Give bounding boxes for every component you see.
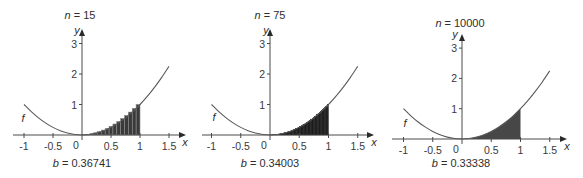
panel-caption: b=0.36741 [53,157,111,169]
origin-label: 0 [453,143,459,155]
x-tick-label: -1 [399,144,408,156]
x-tick-label: 1.5 [350,140,365,152]
curve-label: f [403,117,407,129]
x-tick-label: 1 [326,140,332,152]
curve-label: f [212,111,216,123]
y-tick-label: 1 [71,99,77,111]
panel-title-value: 10000 [454,17,485,29]
curve-label: f [21,112,25,124]
panel-title-value: 75 [273,9,285,21]
x-tick-label: -1 [19,140,28,152]
panel-caption-equals: = [62,157,68,169]
y-tick-label: 3 [71,38,77,50]
x-axis-label: x [370,136,377,148]
x-tick-label: 0.5 [104,140,119,152]
panel-title-equals: = [445,17,451,29]
y-tick-label: 3 [451,42,457,54]
panel-caption-value: 0.34003 [259,157,299,169]
panel-title-variable: n [65,9,71,21]
area-shading [82,105,140,136]
x-tick-label: 0.5 [292,140,307,152]
panel-title: n=75 [255,9,286,21]
area-under-curve [462,109,521,139]
y-tick-label: 1 [451,103,457,115]
panel-caption-equals: = [250,157,256,169]
function-curve [404,71,550,139]
y-axis-arrow-icon [79,29,85,36]
x-tick-label: 1 [518,144,524,156]
plot-panel-n10000: -1-0.50.511.50123xyfn=10000b=0.33338 [392,17,570,169]
origin-label: 0 [261,139,267,151]
y-tick-label: 2 [259,68,265,80]
y-axis-arrow-icon [459,34,465,41]
panel-title-equals: = [74,9,80,21]
panel-title-variable: n [435,17,441,29]
x-axis-label: x [181,136,188,148]
x-tick-label: 1.5 [542,144,557,156]
x-tick-label: 0.5 [484,144,499,156]
x-tick-label: -0.5 [424,144,442,156]
riemann-rectangle [132,108,136,135]
plot-panel-n75: -1-0.50.511.50123xyfn=75b=0.34003 [202,9,377,169]
x-tick-label: 1 [137,140,143,152]
area-shading [462,109,521,139]
panel-caption: b=0.33338 [432,157,490,169]
y-axis-label: y [451,28,459,40]
panel-caption-value: 0.33338 [450,157,490,169]
panel-caption-variable: b [432,157,438,169]
panel-title: n=10000 [435,17,484,29]
panel-caption-equals: = [441,157,447,169]
y-tick-label: 2 [71,68,77,80]
y-tick-label: 3 [259,38,265,50]
function-curve [24,66,169,135]
plot-panel-n15: -1-0.50.511.50123xyfn=15b=0.36741 [13,9,188,169]
x-axis-label: x [563,140,570,152]
riemann-rectangle [136,105,140,136]
panel-title-equals: = [264,9,270,21]
y-tick-label: 1 [259,99,265,111]
riemann-sum-figure: -1-0.50.511.50123xyfn=15b=0.36741 -1-0.5… [0,0,583,178]
panel-caption: b=0.34003 [241,157,299,169]
panel-title-value: 15 [83,9,95,21]
x-tick-label: -0.5 [44,140,62,152]
x-tick-label: -0.5 [232,140,250,152]
area-shading [270,105,329,136]
x-tick-label: -1 [207,140,216,152]
panel-caption-value: 0.36741 [71,157,111,169]
panel-caption-variable: b [53,157,59,169]
panel-title-variable: n [255,9,261,21]
riemann-rectangle [328,105,329,136]
panel-title: n=15 [65,9,96,21]
y-tick-label: 2 [451,72,457,84]
origin-label: 0 [73,139,79,151]
function-curve [212,66,358,135]
panel-caption-variable: b [241,157,247,169]
x-tick-label: 1.5 [162,140,177,152]
